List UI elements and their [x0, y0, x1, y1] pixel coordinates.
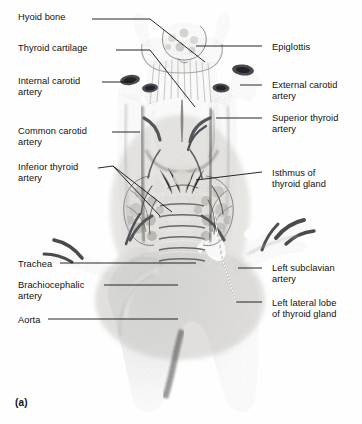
label-trachea: Trachea — [18, 259, 52, 270]
thyroid-anatomy-illustration — [0, 0, 362, 424]
label-hyoid-bone: Hyoid bone — [18, 12, 66, 23]
label-epiglottis: Epiglottis — [272, 42, 310, 53]
label-superior-thyroid: Superior thyroid artery — [272, 113, 338, 135]
label-aorta: Aorta — [18, 315, 40, 326]
panel-letter: (a) — [15, 397, 28, 408]
label-brachiocephalic: Brachiocephalic artery — [18, 280, 84, 302]
label-isthmus: Isthmus of thyroid gland — [272, 168, 326, 190]
label-thyroid-cartilage: Thyroid cartilage — [18, 43, 88, 54]
label-internal-carotid: Internal carotid artery — [18, 76, 80, 98]
label-external-carotid: External carotid artery — [272, 80, 337, 102]
label-left-subclavian: Left subclavian artery — [272, 263, 335, 285]
label-left-lateral-lobe: Left lateral lobe of thyroid gland — [272, 298, 336, 320]
label-common-carotid: Common carotid artery — [18, 126, 87, 148]
label-inferior-thyroid: Inferior thyroid artery — [18, 162, 78, 184]
anatomical-figure: Hyoid boneThyroid cartilageInternal caro… — [0, 0, 362, 424]
